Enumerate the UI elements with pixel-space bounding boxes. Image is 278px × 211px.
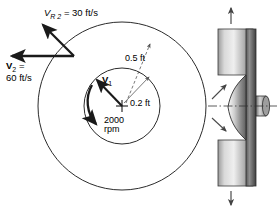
v2-value: 60 ft/s <box>6 73 32 83</box>
rpm-unit: rpm <box>104 125 124 134</box>
relative-velocity-label: VR 2 = 30 ft/s <box>44 8 98 20</box>
inner-velocity-label: V1 <box>102 75 112 87</box>
flow-arrow-lower <box>212 118 226 131</box>
figure-canvas: VR 2 = 30 ft/s V2 = 60 ft/s 0.5 ft 0.2 f… <box>0 0 278 211</box>
rotation-speed-label: 2000 rpm <box>104 116 124 135</box>
impeller-front-view <box>12 22 206 190</box>
vr2-subscript: R 2 <box>50 13 61 20</box>
machine-section-view <box>208 8 277 205</box>
back-plate <box>246 29 256 186</box>
outer-radius-label: 0.5 ft <box>125 54 145 63</box>
flow-arrow-upper <box>212 85 226 99</box>
vr2-value: = 30 ft/s <box>64 7 98 18</box>
inner-radius-label: 0.2 ft <box>130 99 150 108</box>
impeller-profile-curve <box>228 75 246 140</box>
v1-subscript: 1 <box>108 80 112 87</box>
absolute-velocity-label: V2 = 60 ft/s <box>6 61 32 83</box>
rotation-arc-icon <box>88 85 96 124</box>
v2-equals: = <box>19 60 25 71</box>
